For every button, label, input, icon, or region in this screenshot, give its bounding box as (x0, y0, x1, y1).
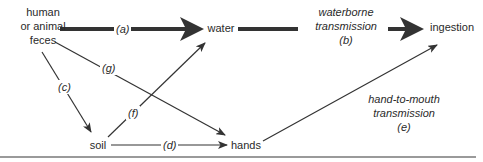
edge-e-label-line-1: hand-to-mouth (359, 92, 449, 106)
node-water: water (204, 21, 238, 35)
bottom-divider (0, 156, 476, 158)
edge-f-arrow (108, 43, 205, 137)
edge-g-label: (g) (100, 61, 117, 75)
transmission-diagram: human or animal feces water ingestion so… (0, 0, 483, 162)
node-soil: soil (88, 138, 108, 152)
edge-e-label-line-3: (e) (359, 120, 449, 134)
edge-c-label: (c) (56, 80, 73, 94)
node-hands: hands (229, 138, 263, 152)
edge-d-label: (d) (161, 138, 178, 152)
node-feces-line-1: human (12, 5, 74, 19)
edge-e-label-line-2: transmission (359, 106, 449, 120)
node-feces-line-2: or animal (12, 19, 74, 33)
node-feces: human or animal feces (12, 5, 74, 47)
edge-b-label-line-3: (b) (302, 33, 390, 47)
edge-e-label: hand-to-mouth transmission (e) (357, 92, 451, 134)
node-feces-line-3: feces (12, 33, 74, 47)
edge-g-arrow (55, 42, 225, 135)
edge-b-label-line-1: waterborne (302, 5, 390, 19)
edge-f-label: (f) (126, 106, 140, 120)
edge-b-label-line-2: transmission (302, 19, 390, 33)
edge-a-label: (a) (114, 22, 131, 36)
edge-b-label: waterborne transmission (b) (300, 5, 392, 47)
node-ingestion: ingestion (425, 20, 479, 34)
